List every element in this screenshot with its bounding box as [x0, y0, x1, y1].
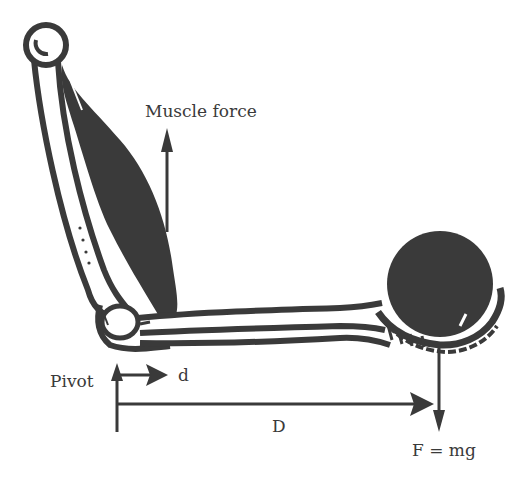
muscle-force-label: Muscle force — [145, 103, 257, 120]
D-label: D — [272, 418, 286, 435]
pivot-arrow — [111, 363, 123, 432]
D-arrow — [117, 392, 434, 416]
weight-arrow — [433, 345, 445, 432]
muscle-force-arrow — [161, 128, 173, 232]
lever-diagram: Muscle force Pivot d D F = mg — [0, 0, 531, 491]
ball — [387, 231, 493, 337]
shoulder-joint — [26, 25, 66, 65]
d-arrow — [117, 364, 168, 386]
pivot-label: Pivot — [50, 373, 94, 390]
weight-force-label: F = mg — [412, 442, 476, 459]
d-label: d — [178, 367, 189, 384]
